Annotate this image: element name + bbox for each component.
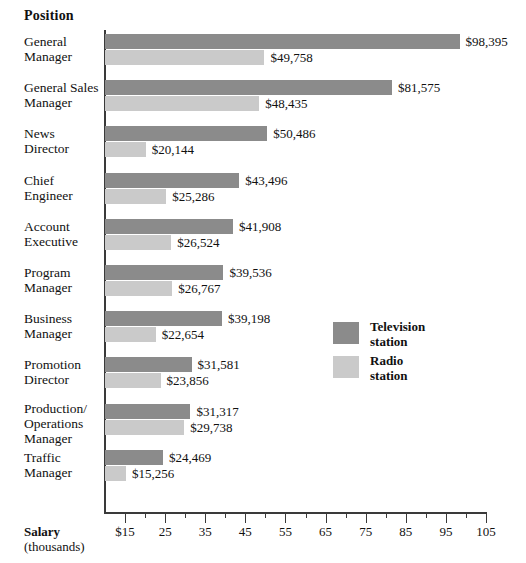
horizontal-axis-line xyxy=(104,512,486,514)
bar-group: GeneralManager$98,395$49,758 xyxy=(0,32,526,78)
bar-tv xyxy=(105,126,267,141)
category-label: PromotionDirector xyxy=(24,357,100,387)
axis-tick-major xyxy=(366,512,367,523)
bar-group: Production/OperationsManager$31,317$29,7… xyxy=(0,402,526,448)
category-label: GeneralManager xyxy=(24,34,100,64)
category-label: ChiefEngineer xyxy=(24,173,100,203)
legend-swatch-icon xyxy=(333,322,359,344)
axis-tick-minor xyxy=(225,512,226,518)
category-label-line: General xyxy=(24,34,67,49)
bar-radio xyxy=(105,281,172,296)
salary-axis-title-main: Salary xyxy=(24,524,60,539)
axis-tick-minor xyxy=(306,512,307,518)
legend-label-line: station xyxy=(370,334,408,349)
bar-value-label: $31,581 xyxy=(198,357,240,372)
salary-bar-chart: Position GeneralManager$98,395$49,758Gen… xyxy=(0,0,526,563)
category-label-line: Promotion xyxy=(24,357,81,372)
axis-tick-major xyxy=(205,512,206,523)
category-label-line: Chief xyxy=(24,173,54,188)
bar-tv xyxy=(105,80,392,95)
bar-value-label: $41,908 xyxy=(239,219,281,234)
bar-group: ChiefEngineer$43,496$25,286 xyxy=(0,171,526,217)
category-label-line: Account xyxy=(24,219,70,234)
position-axis-title: Position xyxy=(24,8,74,24)
bar-radio xyxy=(105,96,259,111)
bar-value-label: $43,496 xyxy=(245,173,287,188)
axis-tick-label: 55 xyxy=(279,524,292,540)
bar-radio xyxy=(105,189,166,204)
bar-value-label: $24,469 xyxy=(169,450,211,465)
category-label-line: News xyxy=(24,126,55,141)
bar-radio xyxy=(105,466,126,481)
bar-value-label: $15,256 xyxy=(132,466,174,481)
bar-value-label: $39,536 xyxy=(229,265,271,280)
bar-value-label: $81,575 xyxy=(398,80,440,95)
bar-radio xyxy=(105,373,161,388)
axis-tick-label: 85 xyxy=(399,524,412,540)
bar-radio xyxy=(105,327,156,342)
axis-tick-label: 25 xyxy=(159,524,172,540)
category-label-line: Manager xyxy=(24,95,72,110)
bar-group: NewsDirector$50,486$20,144 xyxy=(0,124,526,170)
bar-tv xyxy=(105,311,222,326)
salary-axis-title: Salary (thousands) xyxy=(24,524,85,554)
bar-value-label: $23,856 xyxy=(167,373,209,388)
category-label-line: Traffic xyxy=(24,450,61,465)
category-label: Production/OperationsManager xyxy=(24,401,100,446)
bar-value-label: $20,144 xyxy=(152,142,194,157)
category-label-line: Program xyxy=(24,265,71,280)
category-label-line: Engineer xyxy=(24,188,73,203)
axis-tick-major xyxy=(125,512,126,523)
category-label: TrafficManager xyxy=(24,450,100,480)
category-label-line: General Sales xyxy=(24,80,99,95)
bar-tv xyxy=(105,34,460,49)
category-label-line: Director xyxy=(24,141,69,156)
bar-value-label: $26,524 xyxy=(177,235,219,250)
axis-tick-label: 65 xyxy=(319,524,332,540)
bar-value-label: $29,738 xyxy=(190,420,232,435)
category-label-line: Manager xyxy=(24,49,72,64)
bar-tv xyxy=(105,404,190,419)
axis-tick-major xyxy=(406,512,407,523)
bar-value-label: $98,395 xyxy=(466,34,508,49)
legend-label-line: Television xyxy=(370,319,425,334)
category-label-line: Manager xyxy=(24,326,72,341)
axis-tick-major xyxy=(446,512,447,523)
legend-label: Radiostation xyxy=(370,354,408,383)
axis-tick-major xyxy=(486,512,487,523)
salary-axis-title-sub: (thousands) xyxy=(24,539,85,554)
axis-tick-minor xyxy=(145,512,146,518)
category-label-line: Production/ xyxy=(24,401,87,416)
bar-group: ProgramManager$39,536$26,767 xyxy=(0,263,526,309)
bar-radio xyxy=(105,142,146,157)
axis-tick-label: 95 xyxy=(439,524,452,540)
bar-group: BusinessManager$39,198$22,654 xyxy=(0,309,526,355)
axis-tick-minor xyxy=(466,512,467,518)
bar-value-label: $31,317 xyxy=(196,404,238,419)
bar-tv xyxy=(105,265,223,280)
axis-tick-label: 75 xyxy=(359,524,372,540)
category-label: General SalesManager xyxy=(24,80,100,110)
bar-value-label: $48,435 xyxy=(265,96,307,111)
bar-group: General SalesManager$81,575$48,435 xyxy=(0,78,526,124)
axis-tick-label: 105 xyxy=(476,524,496,540)
legend-label-line: station xyxy=(370,368,408,383)
axis-tick-label: $15 xyxy=(115,524,135,540)
axis-tick-minor xyxy=(426,512,427,518)
category-label: ProgramManager xyxy=(24,265,100,295)
axis-tick-minor xyxy=(265,512,266,518)
bar-value-label: $26,767 xyxy=(178,281,220,296)
category-label: BusinessManager xyxy=(24,311,100,341)
bar-group: AccountExecutive$41,908$26,524 xyxy=(0,217,526,263)
category-label: NewsDirector xyxy=(24,126,100,156)
axis-tick-minor xyxy=(346,512,347,518)
axis-tick-major xyxy=(285,512,286,523)
category-label-line: Executive xyxy=(24,234,78,249)
category-label-line: Operations xyxy=(24,416,83,431)
bar-value-label: $49,758 xyxy=(270,50,312,65)
bar-tv xyxy=(105,219,233,234)
axis-tick-major xyxy=(245,512,246,523)
legend-swatch-icon xyxy=(333,356,359,378)
axis-tick-label: 35 xyxy=(199,524,212,540)
bar-value-label: $50,486 xyxy=(273,126,315,141)
